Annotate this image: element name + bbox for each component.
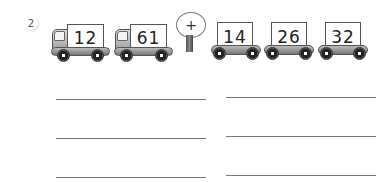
wheel-icon — [155, 49, 168, 62]
answer-line-6[interactable] — [226, 175, 376, 176]
wheel-icon — [91, 49, 104, 62]
tree-trunk — [186, 35, 193, 52]
wheel-icon — [57, 49, 70, 62]
wheel-icon — [246, 47, 259, 60]
wheel-icon — [213, 47, 226, 60]
wheel-icon — [353, 47, 366, 60]
wheel-icon — [120, 49, 133, 62]
wheel-icon — [320, 47, 333, 60]
answer-line-1[interactable] — [56, 99, 206, 100]
answer-line-2[interactable] — [226, 97, 376, 98]
answer-line-5[interactable] — [56, 177, 206, 178]
question-number: 2 — [24, 16, 38, 30]
truck-window — [54, 31, 65, 41]
wheel-icon — [266, 47, 279, 60]
wheel-icon — [299, 47, 312, 60]
answer-line-3[interactable] — [56, 138, 206, 139]
answer-line-4[interactable] — [226, 136, 376, 137]
truck-window — [117, 31, 128, 41]
